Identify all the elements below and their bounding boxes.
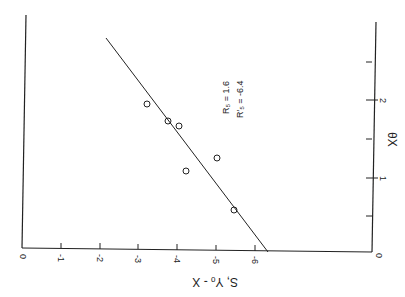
y-ticks bbox=[366, 62, 378, 216]
y-axis bbox=[372, 22, 376, 252]
svg-text:0: 0 bbox=[374, 253, 384, 258]
annotations: R₅ = 1.6 R′₅ = -6.4 bbox=[221, 80, 245, 118]
chart: 0 -1 -2 -3 -4 -5 -6 0 1 2 S, Yₒ - X θX R… bbox=[0, 0, 405, 297]
svg-text:-4: -4 bbox=[172, 255, 182, 263]
y-axis-title: θX bbox=[385, 132, 399, 147]
data-points bbox=[144, 101, 237, 213]
svg-text:-2: -2 bbox=[95, 254, 105, 262]
x-axis bbox=[22, 248, 372, 252]
x-axis-title: S, Yₒ - X bbox=[192, 275, 238, 289]
x-tick-labels: 0 -1 -2 -3 -4 -5 -6 bbox=[18, 254, 260, 264]
svg-text:-1: -1 bbox=[56, 254, 66, 262]
svg-text:R₅ = 1.6: R₅ = 1.6 bbox=[221, 81, 231, 114]
svg-text:0: 0 bbox=[18, 254, 28, 259]
svg-text:-6: -6 bbox=[250, 256, 260, 264]
svg-text:R′₅ = -6.4: R′₅ = -6.4 bbox=[235, 80, 245, 118]
svg-text:2: 2 bbox=[378, 98, 388, 103]
svg-text:1: 1 bbox=[378, 176, 388, 181]
fit-line bbox=[106, 38, 268, 252]
svg-text:-5: -5 bbox=[211, 256, 221, 264]
left-frame-line bbox=[22, 15, 26, 248]
svg-text:-3: -3 bbox=[133, 255, 143, 263]
